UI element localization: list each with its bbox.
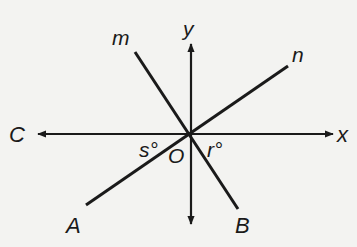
label-m: m xyxy=(112,26,130,49)
label-x: x xyxy=(336,122,349,147)
label-origin-o: O xyxy=(168,144,184,167)
label-a: A xyxy=(64,213,81,238)
line-n xyxy=(86,66,288,205)
line-m xyxy=(135,52,238,209)
label-n: n xyxy=(292,43,304,66)
label-b: B xyxy=(235,213,250,238)
label-c: C xyxy=(9,122,25,147)
label-r-angle: r° xyxy=(207,138,222,161)
label-s-angle: s° xyxy=(139,138,158,161)
label-y: y xyxy=(181,17,195,40)
geometry-diagram: y m n C x s° O r° A B xyxy=(0,0,357,247)
